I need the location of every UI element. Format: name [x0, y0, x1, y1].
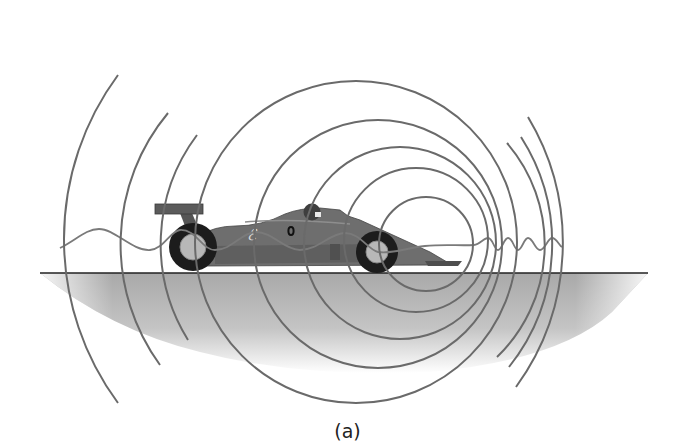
helmet-visor: [315, 212, 321, 217]
ground: [40, 273, 648, 373]
body-lower-panel: [215, 244, 380, 264]
doppler-diagram: ℰ: [0, 0, 695, 448]
figure-caption: (a): [0, 420, 695, 442]
front-wing: [425, 261, 462, 266]
rear-wheel: [169, 223, 217, 271]
wavefront-rear-arc-1: [64, 75, 118, 403]
ground-shadow-edge-fade: [40, 273, 648, 373]
sidepod-vent: [330, 244, 340, 260]
rear-wing: [155, 204, 203, 214]
